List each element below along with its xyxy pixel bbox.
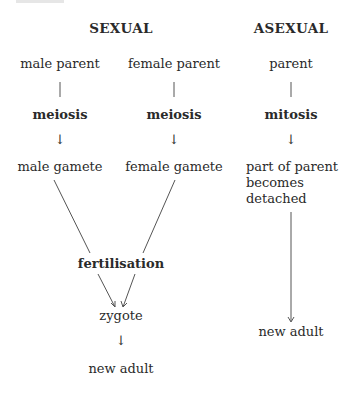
connector-lines bbox=[0, 0, 351, 395]
female-gamete-line bbox=[143, 180, 175, 253]
right-zygote-arrow bbox=[123, 274, 135, 307]
male-gamete-line bbox=[54, 180, 90, 253]
left-zygote-arrow bbox=[98, 274, 115, 307]
